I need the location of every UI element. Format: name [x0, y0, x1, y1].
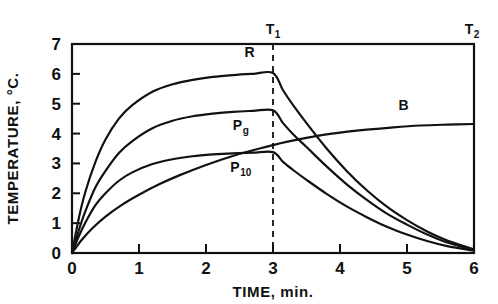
y-tick-label: 1: [52, 214, 61, 233]
x-tick-label: 5: [402, 259, 411, 278]
x-tick-label: 6: [469, 259, 478, 278]
curve-label-subscript: 10: [240, 167, 252, 178]
y-tick-label: 2: [52, 184, 61, 203]
x-tick-label: 2: [201, 259, 210, 278]
curve-label-text: P10: [230, 159, 251, 178]
curve-label-R: R: [244, 44, 254, 60]
curve-label-subscript: g: [243, 125, 249, 136]
curve-label-P10: P10: [230, 159, 251, 178]
x-tick-label: 1: [134, 259, 143, 278]
x-tick-label: 3: [268, 259, 277, 278]
y-axis-label: TEMPERATURE, °C.: [4, 73, 21, 225]
y-tick-label: 0: [52, 244, 61, 263]
y-tick-label: 3: [52, 154, 61, 173]
y-tick-label: 7: [52, 35, 61, 54]
curve-label-text: Pg: [233, 117, 249, 136]
y-tick-label: 5: [52, 95, 61, 114]
chart-figure: 012345670123456TIME, min.TEMPERATURE, °C…: [0, 0, 498, 304]
curve-label-Pg: Pg: [233, 117, 249, 136]
annotation-t2: T2: [465, 21, 480, 40]
temperature-vs-time-chart: 012345670123456TIME, min.TEMPERATURE, °C…: [0, 0, 498, 304]
x-axis-label: TIME, min.: [233, 283, 314, 300]
curve-label-text: R: [244, 44, 254, 60]
curve-label-B: B: [399, 97, 409, 113]
x-tick-label: 4: [335, 259, 345, 278]
annotation-t1: T1: [266, 21, 281, 40]
curve-label-text: B: [399, 97, 409, 113]
x-tick-label: 0: [67, 259, 76, 278]
y-tick-label: 6: [52, 65, 61, 84]
annotation-subscript: 1: [275, 29, 281, 40]
y-tick-label: 4: [52, 125, 62, 144]
annotation-subscript: 2: [474, 29, 480, 40]
